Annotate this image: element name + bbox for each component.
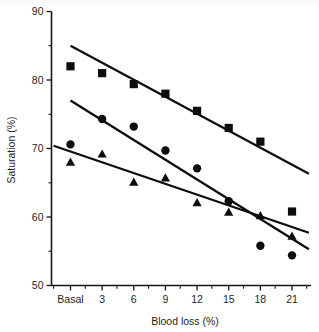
y-tick-labels: 5060708090 bbox=[32, 5, 44, 291]
saturation-vs-blood-loss-chart: Saturation (%) Blood loss (%) 5060708090… bbox=[0, 0, 319, 332]
data-point-circle bbox=[130, 122, 138, 130]
data-point-square bbox=[193, 107, 201, 115]
data-point-square bbox=[288, 207, 296, 215]
data-point-circle bbox=[161, 146, 169, 154]
data-point-circle bbox=[98, 115, 106, 123]
top-margin-band bbox=[0, 0, 319, 6]
data-point-square bbox=[225, 124, 233, 132]
trend-line-circle bbox=[70, 101, 308, 250]
x-tick-label: 18 bbox=[255, 293, 267, 305]
x-tick-label: 12 bbox=[191, 293, 203, 305]
data-point-circle bbox=[225, 197, 233, 205]
data-point-square bbox=[130, 80, 138, 88]
data-point-triangle bbox=[192, 198, 201, 206]
data-point-circle bbox=[256, 242, 264, 250]
data-point-square bbox=[161, 90, 169, 98]
figure-panel: Saturation (%) Blood loss (%) 5060708090… bbox=[0, 0, 319, 332]
x-tick-label: 15 bbox=[223, 293, 235, 305]
data-point-triangle bbox=[224, 208, 233, 216]
x-tick-label: 9 bbox=[163, 293, 169, 305]
y-tick-label: 90 bbox=[32, 5, 44, 17]
x-tick-labels: Basal36912151821 bbox=[57, 293, 298, 305]
data-point-triangle bbox=[98, 149, 107, 157]
data-point-triangle bbox=[66, 158, 75, 166]
x-tick-label: 21 bbox=[286, 293, 298, 305]
data-point-triangle bbox=[161, 173, 170, 181]
y-tick-label: 80 bbox=[32, 74, 44, 86]
data-point-circle bbox=[66, 140, 74, 148]
y-tick-label: 50 bbox=[32, 279, 44, 291]
y-axis-title: Saturation (%) bbox=[5, 116, 17, 183]
data-point-circle bbox=[193, 164, 201, 172]
data-point-square bbox=[98, 69, 106, 77]
data-point-triangle bbox=[129, 177, 138, 185]
x-tick-label: Basal bbox=[57, 293, 83, 305]
caption-strip bbox=[0, 321, 319, 332]
data-point-square bbox=[256, 138, 264, 146]
trend-lines bbox=[54, 46, 309, 249]
x-tick-label: 3 bbox=[99, 293, 105, 305]
y-tick-label: 70 bbox=[32, 142, 44, 154]
y-tick-label: 60 bbox=[32, 211, 44, 223]
trend-line-square bbox=[70, 46, 308, 174]
x-tick-label: 6 bbox=[131, 293, 137, 305]
data-point-circle bbox=[288, 251, 296, 259]
data-point-square bbox=[66, 62, 74, 70]
trend-line-triangle bbox=[54, 146, 309, 233]
